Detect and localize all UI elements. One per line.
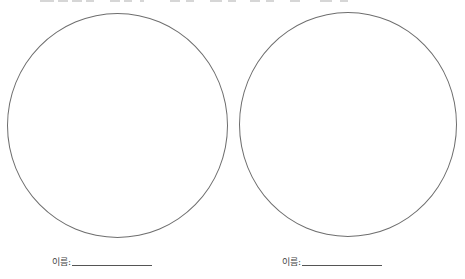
name-field-left[interactable]: 이름: [52, 254, 152, 268]
name-blank-line[interactable] [302, 265, 382, 266]
circle-shape-right [239, 12, 457, 237]
name-blank-line[interactable] [72, 265, 152, 266]
circle-shape-left [7, 13, 228, 238]
name-label: 이름: [52, 256, 71, 268]
clipped-instruction-text [40, 0, 380, 3]
name-field-right[interactable]: 이름: [282, 254, 382, 268]
name-label: 이름: [282, 256, 301, 268]
